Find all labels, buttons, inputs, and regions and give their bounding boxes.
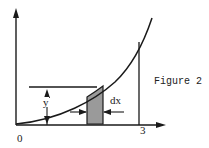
origin-label: 0 [17, 132, 23, 144]
y-axis-arrow-icon [13, 8, 19, 18]
x-axis-arrow-icon [156, 122, 166, 128]
figure-diagram [0, 0, 209, 148]
x-end-label: 3 [140, 124, 146, 136]
shaded-strip [87, 86, 103, 124]
dx-arrow-left-icon [79, 109, 87, 115]
height-label: y [43, 97, 49, 107]
curve [16, 18, 152, 124]
dx-arrow-right-icon [103, 109, 111, 115]
figure-caption: Figure 2 [154, 76, 202, 87]
height-arrow-down-icon [44, 116, 50, 124]
dx-label: dx [110, 94, 121, 106]
